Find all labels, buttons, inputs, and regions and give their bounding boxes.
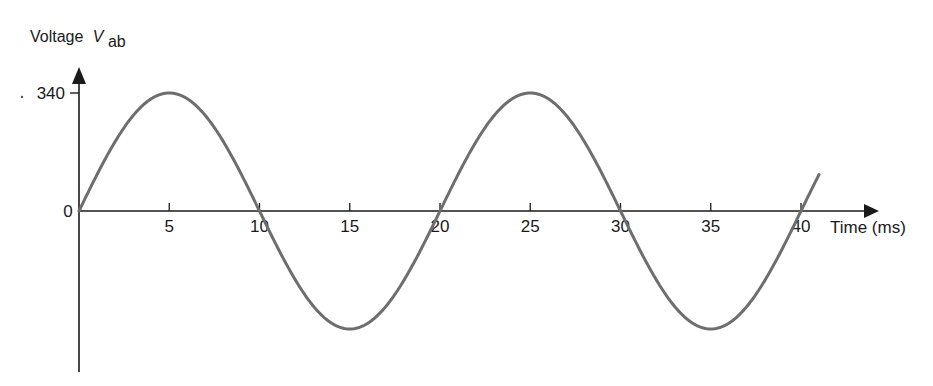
x-axis-label: Time (ms) (830, 218, 906, 237)
x-axis-arrow-icon (864, 204, 879, 218)
y-tick-label-340: 340 (37, 84, 65, 103)
stray-dot (21, 96, 23, 98)
x-tick-label: 5 (165, 217, 174, 236)
y-axis-label: Voltage V ab (30, 28, 126, 50)
origin-label: 0 (63, 202, 72, 221)
x-tick-label: 35 (701, 217, 720, 236)
voltage-chart: 340 0 Voltage V ab 510152025303540 Time … (0, 0, 933, 386)
x-ticks: 510152025303540 (165, 203, 811, 236)
x-tick-label: 15 (340, 217, 359, 236)
x-tick-label: 25 (521, 217, 540, 236)
y-axis-arrow-icon (72, 67, 86, 84)
